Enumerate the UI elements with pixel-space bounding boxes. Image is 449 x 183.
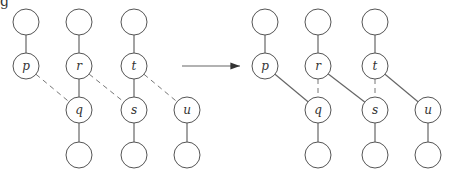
before-node-label-t: t	[132, 59, 137, 73]
after-edge-t-u	[385, 74, 418, 101]
after-node-label-p: p	[261, 59, 269, 73]
before-node-top2	[66, 9, 92, 35]
after-node-top2	[305, 9, 331, 35]
transformation-diagram: g prtqsu prtqsu	[0, 0, 449, 183]
before-dashed-edge-r-s	[89, 74, 124, 102]
after-edge-p-q	[275, 74, 308, 101]
after-node-top3	[362, 9, 388, 35]
before-node-top1	[13, 9, 39, 35]
after-node-top1	[252, 9, 278, 35]
before-node-label-p: p	[22, 59, 30, 73]
before-node-label-u: u	[183, 103, 191, 117]
before-node-bot2	[121, 142, 147, 168]
before-dashed-edge-p-q	[36, 74, 69, 101]
before-node-label-q: q	[75, 103, 83, 117]
after-graph: prtqsu	[252, 9, 441, 168]
after-node-bot3	[415, 142, 441, 168]
before-node-label-s: s	[131, 103, 137, 117]
partial-caption-text: g	[0, 0, 9, 9]
after-node-bot1	[305, 142, 331, 168]
after-node-bot2	[362, 142, 388, 168]
after-node-label-q: q	[314, 103, 322, 117]
after-node-label-s: s	[372, 103, 378, 117]
before-graph: prtqsu	[13, 9, 200, 168]
before-node-bot3	[174, 142, 200, 168]
after-node-label-u: u	[424, 103, 432, 117]
before-dashed-edge-t-u	[144, 74, 177, 101]
before-node-top3	[121, 9, 147, 35]
after-node-label-t: t	[373, 59, 378, 73]
after-edge-r-s	[328, 74, 364, 102]
before-node-bot1	[66, 142, 92, 168]
